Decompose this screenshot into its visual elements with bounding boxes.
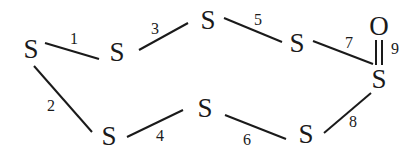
bond-labels-group: 123456789 [47, 11, 399, 148]
bond-3 [139, 23, 188, 50]
sulfur-atom-b: S [109, 37, 124, 67]
bond-number-label: 6 [243, 131, 251, 148]
atoms-group: SSSSSOSSS [23, 5, 388, 151]
bond-number-label: 3 [151, 20, 159, 37]
molecule-diagram: SSSSSOSSS 123456789 [0, 0, 419, 158]
bond-number-label: 2 [47, 97, 55, 114]
sulfur-atom-e: S [371, 64, 386, 94]
bond-2 [34, 66, 92, 132]
sulfur-atom-d: S [289, 28, 304, 58]
sulfur-atom-a: S [23, 34, 38, 64]
bond-4 [127, 110, 183, 137]
bond-number-label: 4 [156, 127, 164, 144]
sulfur-atom-h: S [101, 121, 116, 151]
bond-5 [224, 18, 282, 42]
oxygen-atom-o: O [369, 11, 389, 41]
bond-8 [324, 93, 371, 133]
bond-number-label: 1 [70, 30, 78, 47]
bond-number-label: 7 [345, 34, 353, 51]
sulfur-atom-f: S [298, 119, 313, 149]
bond-6 [225, 115, 286, 139]
sulfur-atom-g: S [197, 93, 212, 123]
bond-number-label: 5 [254, 11, 262, 28]
bond-7 [313, 41, 373, 64]
sulfur-atom-c: S [200, 5, 215, 35]
bond-number-label: 9 [391, 40, 399, 57]
bond-number-label: 8 [349, 113, 357, 130]
